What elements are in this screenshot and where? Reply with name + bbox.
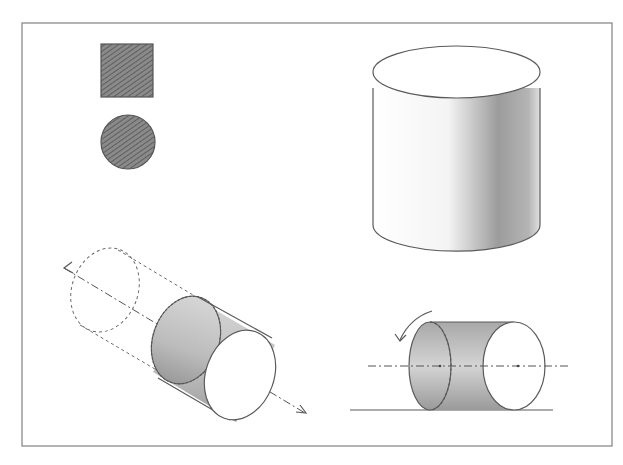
projection-circle [101,115,155,169]
projection-square [101,44,153,97]
cylinder-illustration [0,0,623,465]
upright-cylinder [373,46,540,251]
